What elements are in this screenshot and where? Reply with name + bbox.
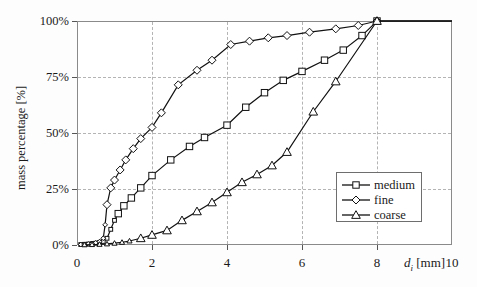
legend-marker-diamond-icon: [341, 193, 371, 207]
legend-item-medium[interactable]: medium: [341, 177, 415, 193]
y-tick-label: 0%: [3, 239, 69, 252]
gridline-horizontal: [78, 77, 451, 78]
x-tick-mark: [302, 245, 303, 250]
legend: mediumfinecoarse: [336, 172, 422, 222]
x-tick-mark: [227, 245, 228, 250]
x-tick-mark: [377, 245, 378, 250]
legend-item-coarse[interactable]: coarse: [341, 207, 406, 223]
x-tick-label: 6: [282, 256, 322, 269]
y-tick-mark: [72, 245, 77, 246]
legend-item-fine[interactable]: fine: [341, 192, 393, 208]
y-tick-label: 50%: [3, 127, 69, 140]
x-tick-label: 2: [132, 256, 172, 269]
x-tick-label: 4: [207, 256, 247, 269]
x-tick-label: 8: [357, 256, 397, 269]
chart-figure: mass percentage [%] 0%25%50%75%100% 0246…: [0, 0, 477, 287]
x-axis-unit: [mm]: [416, 255, 445, 270]
legend-marker-square-icon: [341, 178, 371, 192]
legend-label: coarse: [374, 209, 406, 222]
x-tick-mark: [152, 245, 153, 250]
x-axis-subscript: i: [411, 263, 414, 273]
gridline-horizontal: [78, 133, 451, 134]
legend-label: medium: [374, 179, 415, 192]
x-tick-label: 0: [57, 256, 97, 269]
y-tick-label: 100%: [3, 15, 69, 28]
x-axis-title: di [mm]: [404, 255, 445, 273]
legend-label: fine: [374, 194, 393, 207]
legend-marker-triangle-icon: [341, 208, 371, 222]
y-tick-label: 25%: [3, 183, 69, 196]
y-tick-label: 75%: [3, 71, 69, 84]
